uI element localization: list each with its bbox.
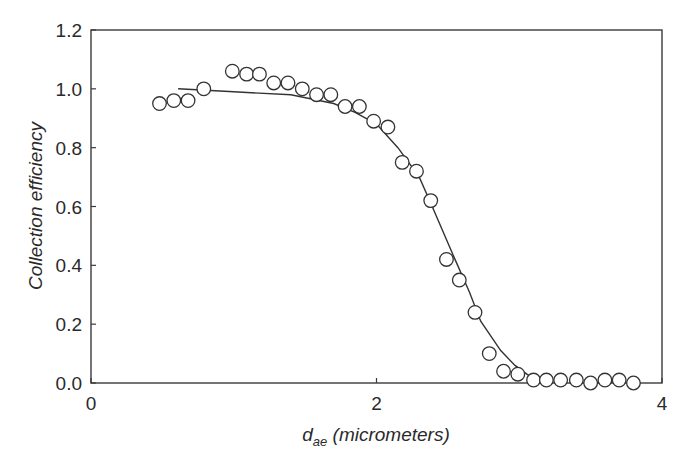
- data-point-circle: [295, 82, 309, 96]
- data-point-circle: [452, 273, 466, 287]
- data-point-circle: [627, 376, 641, 390]
- data-point-circle: [367, 114, 381, 128]
- data-point-circle: [197, 82, 211, 96]
- data-point-circle: [338, 100, 352, 114]
- y-tick-label: 0.8: [56, 138, 82, 159]
- data-point-circle: [540, 373, 554, 387]
- data-point-circle: [468, 306, 482, 320]
- data-point-circle: [511, 367, 525, 381]
- data-point-circle: [381, 120, 395, 134]
- data-point-circle: [612, 373, 626, 387]
- y-tick-label: 0.6: [56, 197, 82, 218]
- y-tick-label: 1.0: [56, 79, 82, 100]
- data-point-circle: [554, 373, 568, 387]
- data-point-circle: [167, 94, 181, 108]
- data-point-circle: [181, 94, 195, 108]
- data-point-circle: [226, 64, 240, 78]
- data-point-circle: [598, 373, 612, 387]
- y-tick-label: 0.4: [56, 255, 83, 276]
- x-tick-label: 4: [657, 393, 668, 414]
- data-point-circle: [281, 76, 295, 90]
- data-point-circle: [153, 97, 167, 111]
- data-point-circle: [253, 67, 267, 81]
- data-point-circle: [527, 373, 541, 387]
- data-point-circle: [324, 88, 338, 102]
- y-tick-label: 0.0: [56, 373, 82, 394]
- x-tick-label: 2: [371, 393, 382, 414]
- data-point-circle: [482, 347, 496, 361]
- data-point-circle: [310, 88, 324, 102]
- data-point-circle: [267, 76, 281, 90]
- plot-frame: [91, 30, 662, 383]
- data-point-circle: [410, 164, 424, 178]
- y-axis-label: Collection efficiency: [25, 121, 46, 290]
- y-tick-label: 1.2: [56, 20, 82, 41]
- data-point-circle: [353, 100, 367, 114]
- data-points: [153, 64, 641, 389]
- data-point-circle: [440, 253, 454, 267]
- fitted-curve-line: [178, 89, 548, 383]
- data-point-circle: [584, 376, 598, 390]
- x-axis-label: dae (micrometers): [302, 424, 450, 449]
- data-point-circle: [497, 364, 511, 378]
- y-axis: 0.00.20.40.60.81.01.2: [56, 20, 96, 394]
- chart-canvas: 0.00.20.40.60.81.01.2 024 Collection eff…: [0, 0, 684, 467]
- data-point-circle: [424, 194, 438, 208]
- data-point-circle: [570, 373, 584, 387]
- data-point-circle: [395, 156, 409, 170]
- y-tick-label: 0.2: [56, 314, 82, 335]
- data-point-circle: [240, 67, 254, 81]
- x-tick-label: 0: [86, 393, 97, 414]
